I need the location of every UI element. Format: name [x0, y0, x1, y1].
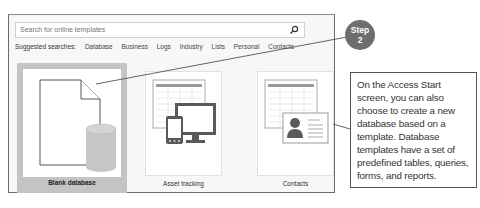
template-tile-contacts[interactable] [257, 71, 334, 176]
suggested-link-logs[interactable]: Logs [157, 43, 171, 50]
contacts-icon [258, 72, 333, 175]
step-badge: Step 2 [345, 20, 375, 50]
template-tile-asset-tracking[interactable] [145, 71, 222, 176]
template-tile-blank-database[interactable]: Blank database [17, 63, 127, 193]
suggested-searches: Suggested searches: Database Business Lo… [15, 43, 301, 50]
search-icon[interactable] [289, 25, 299, 35]
suggested-link-industry[interactable]: Industry [180, 43, 203, 50]
callout-text: On the Access Start screen, you can also… [357, 79, 468, 181]
step-number: 2 [358, 35, 363, 45]
step-label: Step [351, 25, 369, 35]
template-thumbnail [23, 69, 121, 177]
template-label: Blank database [17, 179, 127, 186]
blank-database-icon [23, 69, 121, 177]
suggested-link-database[interactable]: Database [85, 43, 113, 50]
callout-pointer-line [333, 124, 350, 129]
template-label-contacts: Contacts [257, 180, 334, 187]
search-input[interactable] [20, 23, 280, 37]
search-box[interactable] [15, 22, 305, 38]
asset-tracking-icon [146, 72, 221, 175]
suggested-link-business[interactable]: Business [122, 43, 148, 50]
template-label-asset-tracking: Asset tracking [145, 180, 222, 187]
callout-box: On the Access Start screen, you can also… [350, 72, 477, 188]
suggested-link-lists[interactable]: Lists [212, 43, 225, 50]
suggested-searches-label: Suggested searches: [15, 43, 76, 50]
suggested-link-personal[interactable]: Personal [234, 43, 260, 50]
suggested-link-contacts[interactable]: Contacts [268, 43, 294, 50]
